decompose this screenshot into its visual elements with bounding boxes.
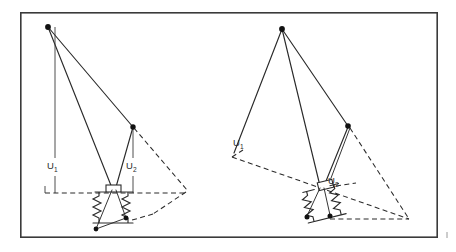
mechanism-diagram-svg: U1 U2: [0, 0, 456, 252]
left-apex-node: [45, 24, 51, 30]
right-base-pivot-left: [305, 215, 310, 220]
right-mid-node: [345, 123, 351, 129]
left-label-u2-subscript: 2: [133, 166, 137, 173]
diagram-frame: [21, 13, 437, 237]
right-base-pivot-right: [328, 214, 333, 219]
left-label-u1-subscript: 1: [54, 166, 58, 173]
left-base-pivot: [94, 227, 99, 232]
right-label-u2-subscript: 2: [335, 181, 339, 188]
right-label-u1-subscript: 1: [240, 143, 244, 150]
left-mid-node: [130, 124, 135, 129]
left-slider-block: [106, 185, 121, 192]
right-apex-node: [279, 26, 285, 32]
left-linkage-node: [124, 216, 129, 221]
figure-root: U1 U2: [0, 0, 456, 252]
